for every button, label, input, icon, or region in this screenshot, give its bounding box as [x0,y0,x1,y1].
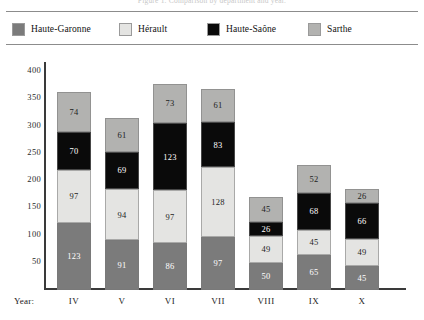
bar-segment-value: 49 [358,248,367,257]
x-tick-label-IX: IX [291,296,337,306]
x-tick-label-VIII: VIII [243,296,289,306]
bar-segment[interactable]: 61 [201,89,235,122]
bar-segment-value: 50 [262,272,271,281]
bar-segment[interactable]: 61 [105,118,139,151]
bar-group-X[interactable]: 26664945 [345,189,379,290]
x-axis-label-row: Year: IVVVIVIIVIIIIXX [0,294,424,314]
bar-segment-value: 68 [310,207,319,216]
bar-segment[interactable]: 123 [153,123,187,190]
bar-segment[interactable]: 86 [153,243,187,290]
bar-group-V[interactable]: 61699491 [105,118,139,290]
legend-label: Hérault [138,24,167,34]
bar-segment[interactable]: 66 [345,203,379,239]
bar-segment-value: 86 [166,262,175,271]
chart-figure: Figure 1. Comparison by department and y… [0,0,424,320]
legend-swatch-icon [207,23,220,36]
y-tick-label: 250 [1,147,41,157]
y-tick-label: 50 [1,256,41,266]
bar-segment-value: 45 [358,274,367,283]
bar-segment[interactable]: 45 [345,266,379,291]
bar-segment-value: 70 [70,147,79,156]
bar-segment-value: 97 [70,192,79,201]
bar-segment[interactable]: 83 [201,122,235,167]
bar-segment-value: 94 [118,211,127,220]
legend-item-haute-sa-ne[interactable]: Haute-Saône [207,23,276,36]
bar-segment[interactable]: 50 [249,263,283,290]
bar-segment[interactable]: 26 [249,222,283,236]
bar-segment[interactable]: 91 [105,240,139,290]
legend-label: Sarthe [327,24,352,34]
y-tick-label: 300 [1,120,41,130]
bar-segment[interactable]: 94 [105,189,139,240]
bar-segment-value: 49 [262,245,271,254]
cropped-caption-text: Figure 1. Comparison by department and y… [0,0,424,6]
bar-segment[interactable]: 69 [105,152,139,190]
bar-segment-value: 69 [118,166,127,175]
legend-top-rule [6,11,418,12]
bar-segment-value: 45 [262,205,271,214]
bar-segment-value: 45 [310,238,319,247]
legend-swatch-icon [119,23,132,36]
bar-segment[interactable]: 97 [57,170,91,223]
bar-segment-value: 128 [211,198,224,207]
legend-item-sarthe[interactable]: Sarthe [308,23,352,36]
bar-segment-value: 61 [118,131,127,140]
y-tick-label: 100 [1,229,41,239]
x-tick-label-VII: VII [195,296,241,306]
bar-segment-value: 123 [163,153,176,162]
bar-segment-value: 66 [358,217,367,226]
bar-segment-value: 26 [262,225,271,234]
legend-label: Haute-Saône [226,24,276,34]
bar-segment-value: 97 [166,213,175,222]
y-tick-label: 400 [1,65,41,75]
legend-item-h-rault[interactable]: Hérault [119,23,167,36]
bar-segment[interactable]: 128 [201,167,235,237]
bar-segment[interactable]: 97 [153,190,187,243]
bar-segment[interactable]: 68 [297,193,331,230]
bar-segment[interactable]: 49 [249,236,283,263]
y-tick-label: 200 [1,174,41,184]
legend-bottom-rule [6,44,418,45]
bar-segment-value: 73 [166,99,175,108]
y-tick-label: 150 [1,201,41,211]
bar-segment-value: 83 [214,141,223,150]
bar-segment-value: 26 [358,192,367,201]
year-caption: Year: [14,296,34,306]
bar-segment-value: 97 [214,259,223,268]
bar-segment[interactable]: 52 [297,165,331,193]
x-tick-label-V: V [99,296,145,306]
x-tick-label-IV: IV [51,296,97,306]
y-tick-label: 350 [1,92,41,102]
bar-segment[interactable]: 26 [345,189,379,203]
bar-group-VII[interactable]: 618312897 [201,89,235,290]
bar-segment-value: 52 [310,175,319,184]
bar-group-VI[interactable]: 731239786 [153,84,187,290]
bar-group-IX[interactable]: 52684565 [297,165,331,290]
bar-segment[interactable]: 45 [297,230,331,255]
bar-segment[interactable]: 97 [201,237,235,290]
bar-segment[interactable]: 49 [345,239,379,266]
x-tick-label-VI: VI [147,296,193,306]
bar-segment[interactable]: 65 [297,255,331,290]
bar-segment-value: 65 [310,268,319,277]
bar-segment[interactable]: 123 [57,223,91,290]
x-tick-label-X: X [339,296,385,306]
bar-segment[interactable]: 70 [57,132,91,170]
legend-swatch-icon [308,23,321,36]
bar-group-VIII[interactable]: 45264950 [249,197,283,290]
bar-segment-value: 91 [118,261,127,270]
bar-segment[interactable]: 74 [57,92,91,132]
bar-segment-value: 123 [67,252,80,261]
bar-group-IV[interactable]: 747097123 [57,92,91,290]
bar-segment-value: 61 [214,101,223,110]
bar-segment[interactable]: 73 [153,84,187,124]
y-axis-tick-labels: 50100150200250300350400 [0,0,41,320]
bar-segment[interactable]: 45 [249,197,283,222]
chart-legend: Haute-GaronneHéraultHaute-SaôneSarthe [6,18,418,40]
bar-segment-value: 74 [70,108,79,117]
plot-area: 7470971236169949173123978661831289745264… [44,62,406,290]
